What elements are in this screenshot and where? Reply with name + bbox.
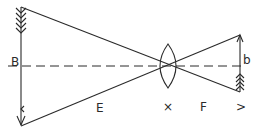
label-image-end-mark: > (236, 100, 246, 114)
label-image-b: b (243, 53, 251, 67)
label-distance-F: F (200, 100, 207, 114)
ray-top (21, 7, 240, 92)
label-distance-E: E (96, 101, 104, 115)
lens-diagram: B E × F > b (0, 0, 253, 132)
label-lens-center-mark: × (163, 100, 173, 114)
label-object-B: B (11, 55, 19, 69)
ray-bottom (21, 35, 240, 126)
